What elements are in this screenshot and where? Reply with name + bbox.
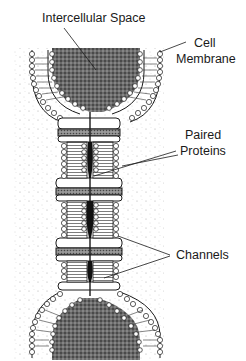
leader-cell-membrane <box>160 42 186 52</box>
label-intercellular-space: Intercellular Space <box>42 11 146 25</box>
paired-protein-column <box>56 112 122 298</box>
label-cell-line1: Cell <box>194 36 216 50</box>
label-membrane-line2: Membrane <box>176 52 236 66</box>
label-channels: Channels <box>176 248 229 262</box>
gap-junction-diagram: Intercellular Space Cell Membrane Paired… <box>0 0 246 361</box>
label-paired-line1: Paired <box>185 128 221 142</box>
label-proteins-line2: Proteins <box>180 144 226 158</box>
